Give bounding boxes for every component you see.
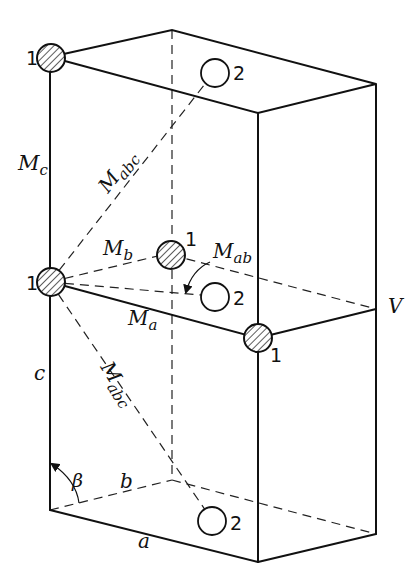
bottom-a-edge: [50, 510, 258, 562]
label-a: a: [138, 529, 150, 553]
atom-label: 2: [233, 287, 245, 309]
label-beta: β: [71, 469, 83, 491]
label-Mabc-lower: Mabc: [92, 356, 142, 412]
label-Mb: Mb: [102, 236, 133, 264]
atom-2-bottom: [198, 507, 226, 535]
atom-1-mid-center: [157, 241, 185, 269]
atom-label: 1: [26, 47, 38, 69]
atom-2-top-back: [201, 59, 229, 87]
atom-1-top-left: [37, 44, 65, 72]
label-Mc: Mc: [17, 151, 49, 179]
bottom-b-edge: [50, 480, 172, 510]
atom-label: 2: [230, 512, 242, 534]
label-b: b: [120, 469, 133, 493]
bottom-front-right-edge: [258, 534, 376, 562]
label-V: V: [388, 294, 405, 318]
atom-label: 1: [185, 228, 197, 250]
label-Mab: Mab: [212, 239, 252, 267]
caption-cutoff: [0, 572, 418, 585]
hidden-edges: [50, 30, 376, 534]
interatomic-vectors: [50, 75, 212, 520]
atom-1-mid-front: [244, 324, 272, 352]
label-c: c: [34, 361, 45, 385]
unit-cell-diagram: 1 2 1 1 2 1 2 Mc Mabc Mb Mab Ma Mabc V c…: [0, 0, 418, 585]
atom-2-mid-center: [201, 283, 229, 311]
atom-1-mid-left: [37, 268, 65, 296]
mid-front-right-edge: [258, 309, 376, 338]
atom-label: 1: [26, 272, 38, 294]
atom-label: 2: [233, 62, 245, 84]
label-Mabc-upper: Mabc: [92, 144, 144, 200]
atom-number-labels: 1 2 1 1 2 1 2: [26, 47, 282, 534]
atom-label: 1: [270, 344, 282, 366]
